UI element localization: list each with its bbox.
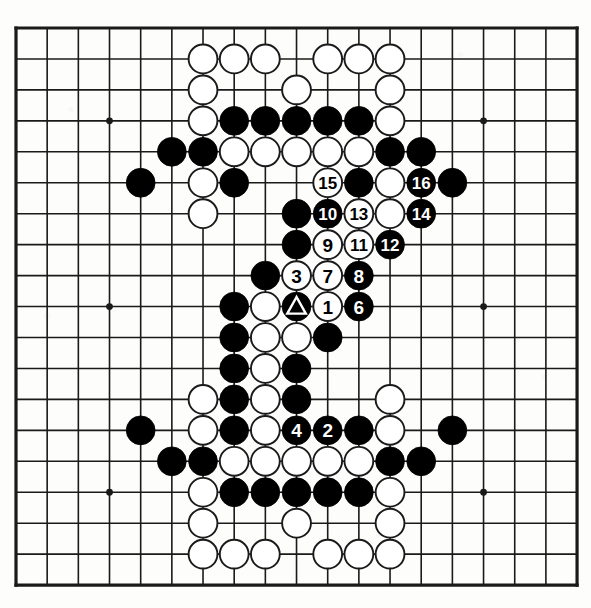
white-stone[interactable]: [251, 323, 280, 352]
white-stone[interactable]: 1: [313, 292, 342, 321]
black-stone[interactable]: [189, 137, 218, 166]
white-stone[interactable]: 11: [344, 230, 373, 259]
black-stone[interactable]: [313, 323, 342, 352]
black-stone[interactable]: [157, 137, 186, 166]
white-stone[interactable]: [220, 540, 249, 569]
white-stone[interactable]: [376, 540, 405, 569]
black-stone[interactable]: 14: [407, 199, 436, 228]
white-stone[interactable]: [376, 106, 405, 135]
white-stone[interactable]: [282, 76, 311, 105]
black-stone[interactable]: [251, 261, 280, 290]
white-stone[interactable]: [282, 509, 311, 538]
white-stone-disc[interactable]: [189, 540, 218, 569]
black-stone[interactable]: 4: [282, 416, 311, 445]
white-stone-disc[interactable]: [189, 76, 218, 105]
white-stone[interactable]: [189, 199, 218, 228]
white-stone-disc[interactable]: [376, 540, 405, 569]
black-stone[interactable]: [344, 168, 373, 197]
white-stone-disc[interactable]: [282, 323, 311, 352]
white-stone[interactable]: [189, 106, 218, 135]
white-stone-disc[interactable]: [251, 354, 280, 383]
black-stone-disc[interactable]: [282, 230, 311, 259]
black-stone-disc[interactable]: [282, 478, 311, 507]
white-stone-disc[interactable]: [282, 509, 311, 538]
black-stone[interactable]: [407, 447, 436, 476]
black-stone-disc[interactable]: [407, 447, 436, 476]
black-stone-disc[interactable]: [126, 168, 155, 197]
black-stone-disc[interactable]: [220, 292, 249, 321]
go-board[interactable]: 1516101314911123781642: [0, 0, 591, 608]
white-stone-disc[interactable]: [251, 540, 280, 569]
black-stone-disc[interactable]: [344, 478, 373, 507]
white-stone[interactable]: [376, 45, 405, 74]
black-stone[interactable]: 12: [376, 230, 405, 259]
white-stone[interactable]: [344, 540, 373, 569]
black-stone-disc[interactable]: [220, 478, 249, 507]
white-stone[interactable]: [376, 76, 405, 105]
white-stone[interactable]: 3: [282, 261, 311, 290]
white-stone[interactable]: [251, 385, 280, 414]
black-stone[interactable]: [189, 447, 218, 476]
white-stone[interactable]: [344, 137, 373, 166]
white-stone[interactable]: [189, 416, 218, 445]
white-stone[interactable]: [313, 45, 342, 74]
white-stone-disc[interactable]: [282, 447, 311, 476]
white-stone[interactable]: 15: [313, 168, 342, 197]
white-stone-disc[interactable]: [376, 76, 405, 105]
white-stone-disc[interactable]: [251, 137, 280, 166]
white-stone[interactable]: [220, 45, 249, 74]
black-stone-disc[interactable]: [157, 137, 186, 166]
white-stone[interactable]: [376, 199, 405, 228]
black-stone[interactable]: [251, 106, 280, 135]
black-stone[interactable]: [376, 447, 405, 476]
white-stone-disc[interactable]: [189, 509, 218, 538]
white-stone-disc[interactable]: [376, 168, 405, 197]
black-stone-disc[interactable]: [220, 416, 249, 445]
white-stone[interactable]: [282, 447, 311, 476]
white-stone-disc[interactable]: [313, 137, 342, 166]
black-stone-disc[interactable]: [251, 261, 280, 290]
white-stone[interactable]: [282, 137, 311, 166]
white-stone[interactable]: [251, 540, 280, 569]
black-stone[interactable]: [220, 106, 249, 135]
white-stone-disc[interactable]: [376, 45, 405, 74]
go-board-canvas[interactable]: 1516101314911123781642: [0, 0, 591, 608]
white-stone[interactable]: [189, 76, 218, 105]
black-stone[interactable]: [282, 385, 311, 414]
black-stone[interactable]: [220, 354, 249, 383]
white-stone[interactable]: [376, 168, 405, 197]
black-stone[interactable]: [282, 354, 311, 383]
black-stone-disc[interactable]: [376, 137, 405, 166]
black-stone[interactable]: [438, 416, 467, 445]
black-stone-disc[interactable]: [251, 478, 280, 507]
white-stone-disc[interactable]: [251, 292, 280, 321]
black-stone[interactable]: [282, 478, 311, 507]
white-stone[interactable]: [251, 447, 280, 476]
white-stone[interactable]: 13: [344, 199, 373, 228]
white-stone[interactable]: [376, 478, 405, 507]
black-stone-disc[interactable]: [438, 416, 467, 445]
black-stone[interactable]: [251, 478, 280, 507]
white-stone[interactable]: [189, 540, 218, 569]
black-stone[interactable]: [282, 106, 311, 135]
white-stone[interactable]: [313, 447, 342, 476]
white-stone-disc[interactable]: [282, 137, 311, 166]
black-stone-disc[interactable]: [220, 385, 249, 414]
white-stone[interactable]: [344, 45, 373, 74]
black-stone[interactable]: [344, 416, 373, 445]
white-stone-disc[interactable]: [220, 137, 249, 166]
white-stone-disc[interactable]: [251, 447, 280, 476]
white-stone[interactable]: [251, 416, 280, 445]
white-stone-disc[interactable]: [313, 447, 342, 476]
white-stone-disc[interactable]: [220, 540, 249, 569]
black-stone-disc[interactable]: [313, 323, 342, 352]
white-stone[interactable]: [376, 509, 405, 538]
black-stone-disc[interactable]: [344, 416, 373, 445]
black-stone[interactable]: [282, 199, 311, 228]
white-stone-disc[interactable]: [376, 478, 405, 507]
black-stone[interactable]: [157, 447, 186, 476]
black-stone[interactable]: [220, 168, 249, 197]
white-stone[interactable]: [344, 447, 373, 476]
white-stone[interactable]: [220, 137, 249, 166]
white-stone-disc[interactable]: [376, 509, 405, 538]
